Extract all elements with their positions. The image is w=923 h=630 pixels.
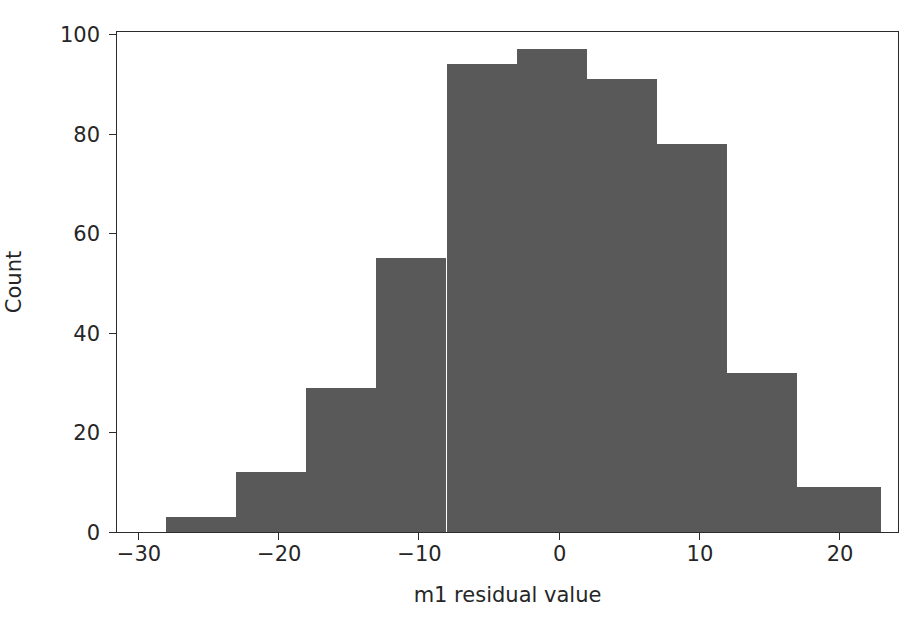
histogram-bar — [166, 517, 236, 532]
x-tick: −30 — [138, 532, 139, 540]
histogram-bar — [306, 388, 376, 532]
y-tick: 20 — [109, 432, 117, 433]
histogram-bar — [517, 49, 587, 532]
histogram-bar — [657, 144, 727, 532]
bars-layer — [117, 32, 898, 532]
plot-area: 020406080100 −30−20−1001020 — [116, 31, 899, 533]
x-tick-label: 0 — [553, 542, 566, 566]
histogram-bar — [727, 373, 797, 532]
histogram-figure: 020406080100 −30−20−1001020 m1 residual … — [0, 0, 923, 630]
x-axis-title: m1 residual value — [116, 583, 899, 607]
x-tick-label: −30 — [117, 542, 161, 566]
x-tick: −20 — [278, 532, 279, 540]
y-tick-label: 40 — [73, 322, 100, 346]
y-tick: 0 — [109, 532, 117, 533]
histogram-bar — [236, 472, 306, 532]
y-tick: 40 — [109, 333, 117, 334]
y-tick: 80 — [109, 134, 117, 135]
x-tick: 0 — [559, 532, 560, 540]
x-tick-label: −20 — [257, 542, 301, 566]
x-tick-label: 20 — [827, 542, 854, 566]
histogram-bar — [587, 79, 657, 532]
x-tick-label: −10 — [397, 542, 441, 566]
histogram-bar — [376, 258, 446, 532]
y-tick-label: 80 — [73, 123, 100, 147]
y-tick-label: 100 — [60, 23, 100, 47]
y-tick-label: 60 — [73, 222, 100, 246]
x-tick: 20 — [839, 532, 840, 540]
y-tick: 60 — [109, 233, 117, 234]
y-axis-title: Count — [2, 251, 26, 313]
x-tick-label: 10 — [687, 542, 714, 566]
x-tick: −10 — [418, 532, 419, 540]
histogram-bar — [797, 487, 881, 532]
x-tick: 10 — [699, 532, 700, 540]
y-tick-label: 20 — [73, 421, 100, 445]
histogram-bar — [447, 64, 517, 532]
y-tick-label: 0 — [87, 521, 100, 545]
y-tick: 100 — [109, 34, 117, 35]
